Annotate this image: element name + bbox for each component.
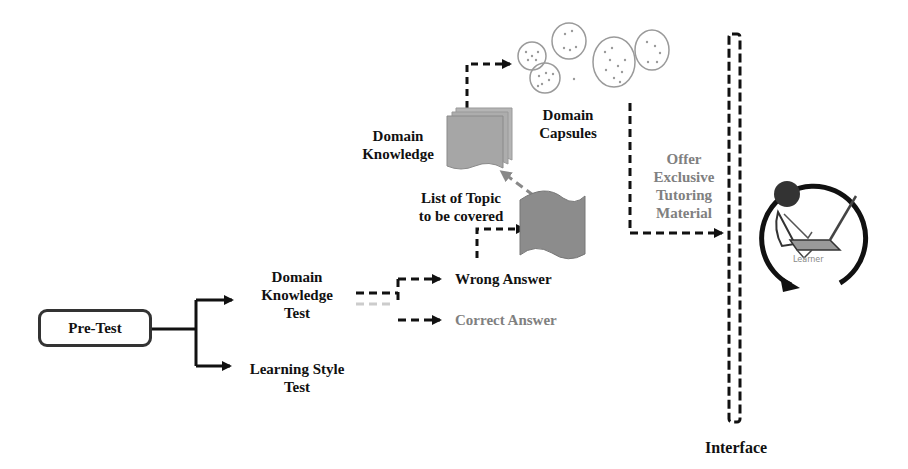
domain-knowledge-document-icon [447,108,512,169]
wrong-to-topic-connector [477,229,524,258]
diagram-connectors [0,0,908,469]
domain-capsules-label: Domain Capsules [528,106,608,142]
domain-capsules-icon [518,23,669,93]
domain-knowledge-test-label: Domain Knowledge Test [238,268,356,322]
learning-style-test-label: Learning Style Test [232,360,362,396]
list-of-topic-label: List of Topic to be covered [405,189,517,225]
wrong-answer-label: Wrong Answer [455,270,585,288]
pretest-branch-connector [152,300,232,366]
answer-branch-connector [356,279,440,320]
domain-knowledge-label: Domain Knowledge [356,127,440,163]
learner-icon [774,181,856,258]
interface-barrier [729,34,740,422]
pre-test-label: Pre-Test [68,320,121,337]
pre-test-node: Pre-Test [38,309,152,347]
diagram-canvas: Pre-Test Domain Knowledge Test Learning … [0,0,908,469]
learner-label: Learner [793,255,824,264]
interface-label: Interface [686,439,786,457]
correct-answer-label: Correct Answer [455,311,585,329]
offer-tutoring-material-label: Offer Exclusive Tutoring Material [646,150,722,222]
knowledge-to-capsules-connector [467,64,510,108]
topic-list-flag-icon [520,191,585,259]
